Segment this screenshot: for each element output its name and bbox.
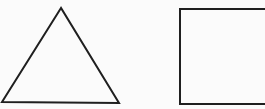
shapes-canvas [0,0,265,109]
triangle-shape [2,8,119,103]
square-shape [180,9,265,104]
